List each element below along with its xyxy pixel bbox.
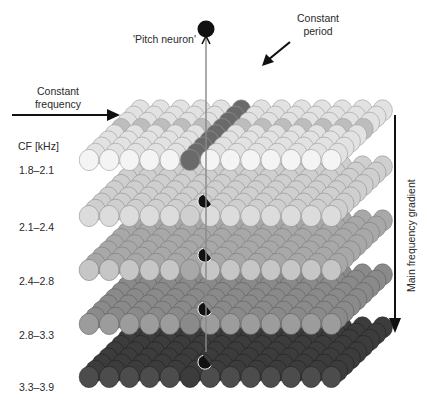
pitch-map-figure: 'Pitch neuron' Constant period Constant … [0,0,427,405]
neuron-cell [261,366,281,387]
neuron-cell [140,259,160,280]
neuron-cell [261,205,281,226]
neuron-cell [281,149,301,170]
cf-range-label: 2.4–2.8 [19,275,54,288]
neuron-cell [241,149,261,170]
neuron-cell [160,313,180,334]
neuron-cell [301,259,321,280]
neuron-cell [221,366,241,387]
layered-neuron-sheets [0,0,427,405]
neuron-cell [180,205,200,226]
neuron-cell [160,259,180,280]
neuron-cell [261,149,281,170]
cf-range-label: 2.1–2.4 [19,221,54,234]
main-frequency-gradient-label: Main frequency gradient [405,179,417,292]
constant-frequency-line2: frequency [26,98,90,111]
constant-frequency-line1: Constant [26,85,90,98]
neuron-cell [79,259,99,280]
neuron-cell [160,205,180,226]
neuron-cell [99,313,119,334]
neuron-cell [99,259,119,280]
neuron-cell [281,259,301,280]
neuron-cell [322,149,342,170]
neuron-cell [79,366,99,387]
neuron-cell [281,205,301,226]
neuron-cell [79,149,99,170]
cf-range-label: 2.8–3.3 [19,329,54,342]
neuron-cell [322,366,342,387]
cf-range-label: 3.3–3.9 [19,381,54,394]
neuron-cell [120,205,140,226]
neuron-cell [99,366,119,387]
neuron-cell [261,313,281,334]
neuron-cell [140,366,160,387]
neuron-cell [200,313,220,334]
neuron-cell [200,259,220,280]
neuron-cell [281,313,301,334]
neuron-cell [322,205,342,226]
neuron-cell [79,205,99,226]
neuron-cell [180,313,200,334]
neuron-cell [301,313,321,334]
neuron-cell [241,313,261,334]
neuron-cell [160,366,180,387]
neuron-cell [261,259,281,280]
constant-frequency-label: Constant frequency [26,85,90,111]
neuron-sheet-layer-1 [79,100,392,171]
neuron-cell [120,366,140,387]
neuron-cell [241,259,261,280]
pitch-neuron-icon [198,21,215,38]
neuron-cell [322,313,342,334]
constant-period-label: Constant period [290,12,346,38]
neuron-cell [160,149,180,170]
neuron-cell [180,259,200,280]
neuron-cell [120,259,140,280]
neuron-cell [200,149,220,170]
neuron-cell [221,149,241,170]
neuron-cell [200,366,220,387]
neuron-cell [79,313,99,334]
neuron-cell [140,313,160,334]
neuron-cell [180,366,200,387]
cf-range-label: 1.8–2.1 [19,164,54,177]
neuron-cell [322,259,342,280]
cf-axis-header: CF [kHz] [18,140,59,153]
neuron-cell [221,313,241,334]
neuron-cell [301,205,321,226]
neuron-cell [221,205,241,226]
neuron-cell [200,205,220,226]
constant-period-arrow [268,42,290,60]
constant-period-line1: Constant [290,12,346,25]
neuron-cell [140,205,160,226]
neuron-cell [180,149,200,170]
neuron-cell [99,149,119,170]
neuron-cell [120,149,140,170]
neuron-cell [241,205,261,226]
neuron-cell [281,366,301,387]
neuron-cell [301,366,321,387]
neuron-cell [99,205,119,226]
neuron-cell [301,149,321,170]
neuron-cell [241,366,261,387]
neuron-cell [140,149,160,170]
neuron-cell [221,259,241,280]
pitch-neuron-label: 'Pitch neuron' [133,33,196,46]
neuron-cell [120,313,140,334]
constant-period-line2: period [290,25,346,38]
